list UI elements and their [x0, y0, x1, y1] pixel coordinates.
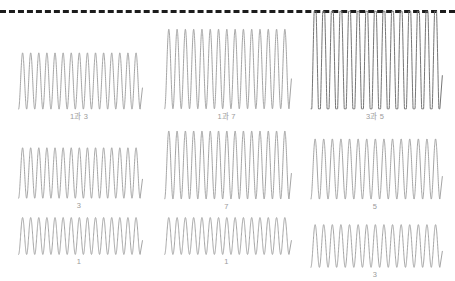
waveform-trace-r2c1 [14, 147, 144, 199]
panel-r3c1: 1 [14, 217, 154, 269]
waveform-trace-r3c3 [306, 224, 444, 268]
waveform-trace-r3c2 [160, 217, 293, 255]
waveform-trace-r3c1 [14, 217, 144, 255]
waveform-trace-r1c1 [14, 52, 144, 110]
panel-caption-r3c1: 1 [14, 257, 144, 267]
panel-caption-r2c2: 7 [160, 202, 293, 212]
waveform-trace-r1c3 [306, 10, 444, 110]
panel-r2c3: 5 [306, 138, 451, 212]
panel-caption-r1c1: 1과 3 [14, 112, 144, 122]
waveform-figure: 1과 3 1과 7 3과 5 3 7 5 1 1 3 [0, 0, 455, 281]
panel-caption-r3c3: 3 [306, 270, 444, 280]
panel-r2c1: 3 [14, 147, 154, 211]
panel-caption-r1c3: 3과 5 [306, 112, 444, 122]
panel-caption-r2c3: 5 [306, 202, 444, 212]
panel-caption-r3c2: 1 [160, 257, 293, 267]
panel-r1c1: 1과 3 [14, 52, 154, 122]
panel-caption-r2c1: 3 [14, 201, 144, 211]
waveform-trace-r2c3 [306, 138, 444, 200]
waveform-trace-r1c2 [160, 28, 293, 110]
panel-r1c3: 3과 5 [306, 10, 451, 122]
panel-caption-r1c2: 1과 7 [160, 112, 293, 122]
panel-r3c3: 3 [306, 224, 451, 280]
panel-r2c2: 7 [160, 130, 300, 212]
waveform-trace-r2c2 [160, 130, 293, 200]
panel-r3c2: 1 [160, 217, 300, 269]
panel-r1c2: 1과 7 [160, 28, 300, 122]
